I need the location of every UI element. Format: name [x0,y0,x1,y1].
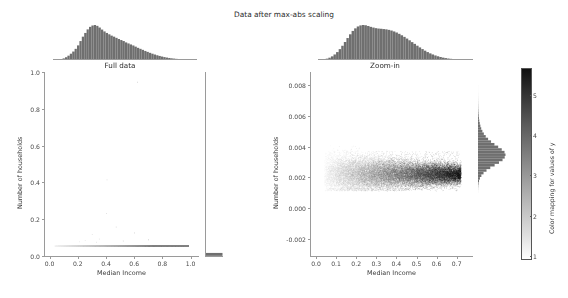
right-ytick-label: 0.000 [276,205,306,212]
right-xtick-label: 0.4 [392,260,402,267]
right-yaxis-label: Number of households [272,137,280,209]
left-xtick-label: 0.2 [73,260,83,267]
left-marginal-y-spine [205,72,206,256]
right-xtick-label: 0.7 [452,260,462,267]
left-ytick-label: 0.8 [20,105,40,112]
colorbar-tick-label: 2 [533,212,537,219]
left-axis-yspine [44,72,45,256]
right-xtick-label: 0.3 [371,260,381,267]
left-ytick-label: 0.2 [20,216,40,223]
figure-canvas: Data after max-abs scaling Full data 0.0… [0,0,568,298]
colorbar-gradient [521,68,532,260]
right-xtick-label: 0.0 [311,260,321,267]
left-xaxis-label: Median Income [44,269,199,277]
right-xtick-label: 0.2 [351,260,361,267]
left-xtick-label: 0.6 [129,260,139,267]
right-panel-title: Zoom-in [260,61,510,70]
left-marginal-y-baseline [205,256,223,257]
right-scatter-plotarea [310,72,473,256]
right-ytick-label: 0.008 [276,82,306,89]
colorbar-tick-label: 4 [533,131,537,138]
left-xtick-label: 0.4 [101,260,111,267]
left-marginal-x-baseline [53,59,197,60]
right-xtick-label: 0.5 [412,260,422,267]
left-ytick-label: 0.0 [20,253,40,260]
right-ytick-label: 0.004 [276,143,306,150]
left-scatter-plotarea [44,72,199,256]
left-xtick-label: 0.8 [158,260,168,267]
right-ytick-label: 0.006 [276,113,306,120]
right-ytick-label: -0.002 [276,235,306,242]
right-axis-xspine [310,256,473,257]
right-xtick-label: 0.1 [331,260,341,267]
right-scatter-points [310,72,473,256]
right-marginal-x-histogram [318,24,473,60]
right-marginal-y-histogram [478,72,506,256]
colorbar-tick-label: 5 [533,91,537,98]
left-marginal-y-histogram [205,72,223,256]
right-marginal-x-baseline [318,59,473,60]
left-xtick-label: 1.0 [186,260,196,267]
right-xtick-label: 0.6 [432,260,442,267]
left-ytick-label: 1.0 [20,69,40,76]
colorbar-tick-label: 3 [533,172,537,179]
right-xaxis-label: Median Income [310,269,473,277]
left-scatter-points [44,72,199,256]
left-yaxis-label: Number of households [16,137,24,209]
left-xtick-label: 0.0 [45,260,55,267]
left-marginal-x-histogram [53,24,197,60]
colorbar-axis-label: Color mapping for values of y [548,143,555,235]
colorbar-tick-label: 1 [533,253,537,260]
left-axis-xspine [44,256,199,257]
panel-full-data: Full data 0.0 0.2 0.4 0.6 0.8 1.0 0.0 [0,0,240,298]
right-ytick-label: 0.002 [276,174,306,181]
right-axis-yspine [310,72,311,256]
